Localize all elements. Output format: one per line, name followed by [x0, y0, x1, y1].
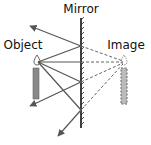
virtual-rays: [81, 46, 123, 110]
mirror-label: Mirror: [63, 2, 98, 16]
mirror: [81, 17, 84, 128]
incident-rays: [38, 46, 81, 110]
object-candle-body: [33, 68, 39, 99]
object-label: Object: [3, 38, 42, 52]
reflected-ray-arrow-icon: [58, 110, 81, 136]
image-flame-icon: [121, 55, 127, 65]
mirror-reflection-diagram: Mirror Object Image: [0, 0, 151, 145]
image-label: Image: [107, 38, 145, 52]
image-candle-body: [121, 68, 127, 104]
